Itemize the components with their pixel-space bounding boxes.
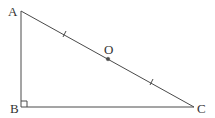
label-a: A [8,4,18,19]
triangle-diagram: A B C O [0,0,215,118]
label-b: B [10,101,19,116]
label-o: O [104,42,113,57]
midpoint-o-dot [106,57,110,61]
right-angle-marker [21,101,27,107]
label-c: C [197,101,206,116]
